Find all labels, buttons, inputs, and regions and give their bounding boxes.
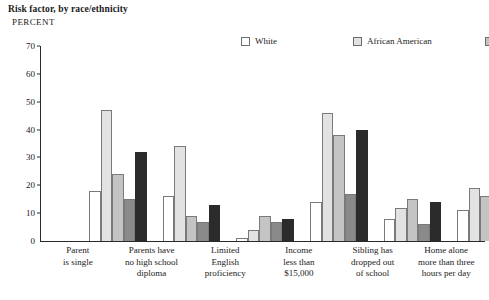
y-axis-tick-mark: [37, 46, 40, 47]
axis-unit-label: PERCENT: [12, 17, 55, 27]
bar-group: [81, 46, 155, 241]
legend-swatch-icon: [241, 37, 250, 46]
bar-group: [155, 46, 229, 241]
category-label-line: Sibling has: [337, 245, 409, 257]
category-label-line: Limited: [189, 245, 261, 257]
y-axis-tick-label: 30: [26, 152, 35, 162]
y-axis-tick-mark: [37, 129, 40, 130]
bar: [384, 219, 396, 241]
bar: [310, 202, 322, 241]
category-label-line: less than: [263, 257, 335, 269]
category-label-line: Parent: [42, 245, 114, 257]
category-label-line: $15,000: [263, 268, 335, 280]
category-label-line: proficiency: [189, 268, 261, 280]
bar: [395, 208, 407, 241]
bar: [469, 188, 481, 241]
category-label-line: diploma: [116, 268, 188, 280]
bar: [101, 110, 113, 241]
bar: [322, 113, 334, 241]
bar: [174, 146, 186, 241]
category-label-line: hours per day: [410, 268, 482, 280]
bar-groups: [81, 46, 489, 241]
bar: [259, 216, 271, 241]
y-axis-tick-label: 0: [31, 236, 36, 246]
category-label-line: dropped out: [337, 257, 409, 269]
legend-item-label: White: [255, 37, 277, 46]
bar: [112, 174, 124, 241]
legend-item-label: African American: [367, 37, 432, 46]
y-axis-tick-mark: [37, 101, 40, 102]
category-label: Sibling hasdropped outof school: [336, 245, 410, 280]
x-axis-line: [40, 241, 485, 242]
bar-group: [302, 46, 376, 241]
y-axis-tick-label: 60: [26, 69, 35, 79]
plot-area: 010203040506070: [40, 46, 483, 241]
x-axis-category-labels: Parentis singleParents haveno high schoo…: [41, 245, 483, 280]
bar: [407, 199, 419, 241]
y-axis-tick-label: 40: [26, 125, 35, 135]
bar: [124, 199, 136, 241]
y-axis-tick-mark: [37, 213, 40, 214]
category-label-line: more than three: [410, 257, 482, 269]
category-label-line: Income: [263, 245, 335, 257]
bar: [186, 216, 198, 241]
y-axis-tick-mark: [37, 157, 40, 158]
bar: [345, 194, 357, 241]
bar: [197, 222, 209, 242]
bar: [163, 196, 175, 241]
bar: [430, 202, 442, 241]
y-axis-tick-label: 20: [26, 180, 35, 190]
bar: [135, 152, 147, 241]
bar: [418, 224, 430, 241]
category-label: Incomeless than$15,000: [262, 245, 336, 280]
bar: [457, 210, 469, 241]
bar-group: [449, 46, 489, 241]
y-axis-tick-mark: [37, 185, 40, 186]
category-label: Home alonemore than threehours per day: [409, 245, 483, 280]
bar: [209, 205, 221, 241]
category-label-line: English: [189, 257, 261, 269]
y-axis-tick-mark: [37, 73, 40, 74]
legend-swatch-icon: [485, 37, 489, 46]
bar-group: [376, 46, 450, 241]
bar: [282, 219, 294, 241]
bar: [271, 222, 283, 242]
page-title: Risk factor, by race/ethnicity: [8, 4, 128, 14]
category-label-line: no high school: [116, 257, 188, 269]
category-label-line: of school: [337, 268, 409, 280]
bar: [356, 130, 368, 241]
category-label-line: Parents have: [116, 245, 188, 257]
bar: [236, 238, 248, 241]
legend-swatch-icon: [353, 37, 362, 46]
y-axis-tick-label: 70: [26, 41, 35, 51]
bar: [89, 191, 101, 241]
bar: [480, 196, 489, 241]
category-label: Parents haveno high schooldiploma: [115, 245, 189, 280]
category-label: Parentis single: [41, 245, 115, 280]
y-axis-tick-label: 50: [26, 97, 35, 107]
category-label-line: Home alone: [410, 245, 482, 257]
category-label-line: is single: [42, 257, 114, 269]
bar: [333, 135, 345, 241]
y-axis-tick-label: 10: [26, 208, 35, 218]
bar-group: [228, 46, 302, 241]
bar: [248, 230, 260, 241]
category-label: LimitedEnglishproficiency: [188, 245, 262, 280]
